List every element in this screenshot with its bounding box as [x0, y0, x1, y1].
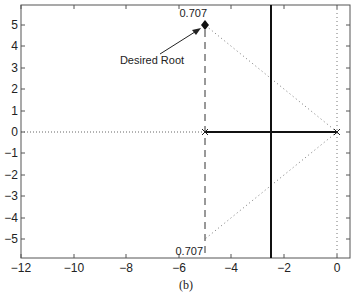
x-tick-labels: −12 −10 −8 −6 −4 −2 0 [11, 261, 341, 275]
y-tick-label: 1 [11, 104, 18, 118]
y-tick-label: 5 [11, 18, 18, 32]
x-tick-label: 0 [334, 261, 341, 275]
y-tick-label: 3 [11, 61, 18, 75]
figure-caption: (b) [179, 278, 193, 292]
x-tick-label: −4 [224, 261, 238, 275]
x-tick-label: −8 [119, 261, 133, 275]
x-tick-label: −6 [172, 261, 186, 275]
arrowhead-icon [192, 28, 201, 35]
y-tick-labels: −5 −4 −3 −2 −1 0 1 2 3 4 5 [4, 18, 18, 246]
y-tick-label: −5 [4, 232, 18, 246]
x-tick-label: −12 [11, 261, 32, 275]
x-tick-label: −10 [64, 261, 85, 275]
y-tick-label: −4 [4, 211, 18, 225]
y-tick-label: −1 [4, 146, 18, 160]
desired-root-marker-icon [201, 20, 209, 30]
y-tick-label: −2 [4, 168, 18, 182]
x-tick-label: −2 [277, 261, 291, 275]
damping-label-top: 0.707 [179, 7, 207, 19]
y-tick-label: 4 [11, 39, 18, 53]
y-tick-label: 0 [11, 125, 18, 139]
damping-label-bottom: 0.707 [175, 245, 203, 257]
y-tick-label: −3 [4, 189, 18, 203]
desired-root-label: Desired Root [120, 54, 184, 66]
root-locus-chart: −12 −10 −8 −6 −4 −2 0 −5 −4 −3 −2 −1 0 1… [0, 0, 351, 293]
y-tick-label: 2 [11, 82, 18, 96]
annotation-arrow [160, 30, 198, 54]
